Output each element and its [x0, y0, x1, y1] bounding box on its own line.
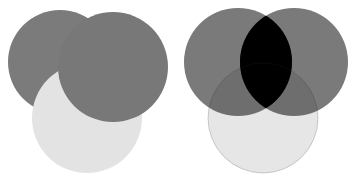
normal-circles-diagram	[0, 0, 175, 184]
multiply-circles-diagram	[175, 0, 350, 184]
multiply-blend-panel	[175, 0, 350, 184]
front-right-circle	[58, 12, 168, 122]
normal-stacking-panel	[0, 0, 175, 184]
